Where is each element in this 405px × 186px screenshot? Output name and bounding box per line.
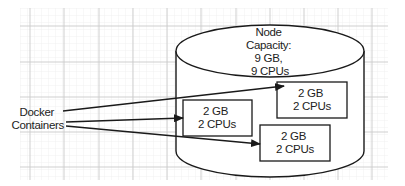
diagram-canvas: Node Capacity: 9 GB, 9 CPUs 2 GB 2 CPUs … bbox=[0, 0, 405, 186]
container-3-label: 2 GB 2 CPUs bbox=[276, 130, 314, 155]
source-label-line-1: Docker bbox=[19, 106, 54, 118]
node-label-line-3: 9 GB, bbox=[255, 52, 283, 64]
container-1-label: 2 GB 2 CPUs bbox=[198, 105, 236, 130]
source-label-line-2: Containers bbox=[11, 119, 64, 131]
container-2-cpus: 2 CPUs bbox=[293, 100, 331, 112]
container-1-memory: 2 GB bbox=[203, 105, 229, 117]
container-2-label: 2 GB 2 CPUs bbox=[293, 87, 331, 112]
container-3-cpus: 2 CPUs bbox=[276, 143, 314, 155]
node-label-line-2: Capacity: bbox=[246, 39, 291, 51]
container-3-memory: 2 GB bbox=[281, 130, 307, 142]
node-label-line-1: Node bbox=[255, 26, 281, 38]
container-2-memory: 2 GB bbox=[298, 87, 324, 99]
container-box-1: 2 GB 2 CPUs bbox=[183, 100, 252, 136]
container-box-2: 2 GB 2 CPUs bbox=[277, 82, 347, 118]
container-1-cpus: 2 CPUs bbox=[198, 118, 236, 130]
container-box-3: 2 GB 2 CPUs bbox=[260, 125, 330, 161]
node-label-line-4: 9 CPUs bbox=[251, 65, 289, 77]
docker-containers-label: Docker Containers bbox=[11, 106, 64, 131]
